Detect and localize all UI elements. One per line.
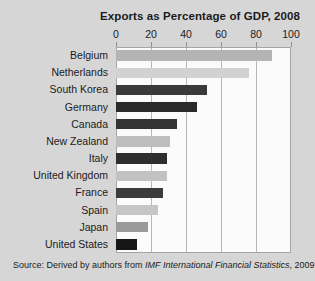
chart-title: Exports as Percentage of GDP, 2008 [100, 10, 300, 22]
bar-canada [116, 119, 177, 129]
bar-new-zealand [116, 136, 170, 146]
x-tick-label-80: 80 [250, 28, 262, 40]
bar-row [116, 150, 291, 167]
bar-united-kingdom [116, 171, 167, 181]
bar-spain [116, 205, 158, 215]
bar-row [116, 64, 291, 81]
bar-row [116, 202, 291, 219]
bar-row [116, 167, 291, 184]
category-label-spain: Spain [81, 202, 108, 219]
bar-france [116, 188, 163, 198]
category-axis-labels: BelgiumNetherlandsSouth KoreaGermanyCana… [0, 47, 112, 253]
bar-row [116, 219, 291, 236]
category-label-france: France [75, 184, 108, 201]
bar-row [116, 133, 291, 150]
category-label-netherlands: Netherlands [51, 64, 108, 81]
bar-row [116, 236, 291, 253]
category-label-japan: Japan [79, 219, 108, 236]
bar-netherlands [116, 68, 249, 78]
bar-row [116, 116, 291, 133]
x-tick-label-40: 40 [180, 28, 192, 40]
x-tick-label-0: 0 [113, 28, 119, 40]
category-label-new-zealand: New Zealand [46, 133, 108, 150]
category-label-italy: Italy [89, 150, 108, 167]
x-tick-label-100: 100 [282, 28, 300, 40]
source-publication: IMF International Financial Statistics [145, 260, 289, 270]
source-prefix: Source: Derived by authors from [13, 260, 145, 270]
x-axis-tick-labels: 020406080100 [116, 28, 291, 41]
x-tick-label-60: 60 [215, 28, 227, 40]
bar-row [116, 99, 291, 116]
bar-row [116, 47, 291, 64]
x-tick-mark-100 [291, 42, 292, 47]
chart-figure: Exports as Percentage of GDP, 2008 02040… [0, 0, 315, 281]
bar-united-states [116, 239, 137, 249]
category-label-canada: Canada [71, 116, 108, 133]
category-label-belgium: Belgium [70, 47, 108, 64]
x-tick-label-20: 20 [145, 28, 157, 40]
bar-japan [116, 222, 148, 232]
bar-south-korea [116, 85, 207, 95]
bar-row [116, 81, 291, 98]
category-label-south-korea: South Korea [50, 81, 108, 98]
source-note: Source: Derived by authors from IMF Inte… [13, 260, 315, 270]
category-label-united-states: United States [45, 236, 108, 253]
bars-layer [116, 47, 291, 253]
source-suffix: , 2009. [289, 260, 315, 270]
bar-italy [116, 153, 167, 163]
bar-row [116, 184, 291, 201]
category-label-united-kingdom: United Kingdom [33, 167, 108, 184]
bar-belgium [116, 50, 272, 60]
category-label-germany: Germany [65, 99, 108, 116]
bar-germany [116, 102, 197, 112]
